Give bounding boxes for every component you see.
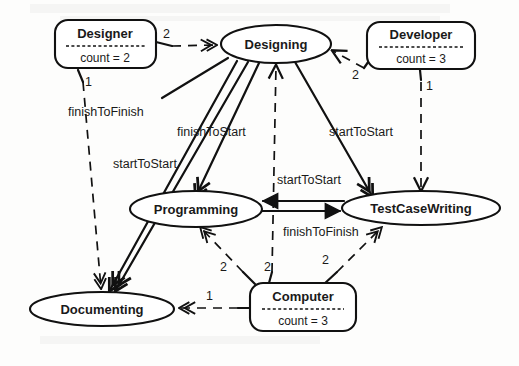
edge-designer-to-designing xyxy=(156,42,216,46)
multiplicity-computer-testcase: 2 xyxy=(322,253,329,267)
edge-label-starttostart-right: startToStart xyxy=(329,125,393,139)
edge-designer-to-documenting xyxy=(78,70,101,288)
edge-label-starttostart-left: startToStart xyxy=(113,157,177,171)
node-programming-label: Programming xyxy=(154,202,239,217)
node-designing[interactable]: Designing xyxy=(221,25,331,63)
object-computer[interactable]: Computer count = 3 xyxy=(250,283,356,331)
edge-label-starttostart-mid: startToStart xyxy=(277,173,341,187)
object-computer-attribute: count = 3 xyxy=(278,314,328,328)
multiplicity-developer-designing: 2 xyxy=(352,68,359,82)
multiplicity-computer-documenting: 1 xyxy=(206,289,213,303)
multiplicity-computer-programming: 2 xyxy=(220,260,227,274)
edge-developer-to-testcase xyxy=(420,70,421,190)
object-computer-title: Computer xyxy=(272,289,333,304)
node-testcasewriting[interactable]: TestCaseWriting xyxy=(342,191,500,225)
node-designing-label: Designing xyxy=(245,37,308,52)
edge-computer-to-programming xyxy=(201,228,255,284)
node-documenting-label: Documenting xyxy=(60,302,143,317)
object-developer[interactable]: Developer count = 3 xyxy=(367,22,475,69)
diagram-canvas: Designing Programming TestCaseWriting Do… xyxy=(0,0,519,366)
diagram-svg: Designing Programming TestCaseWriting Do… xyxy=(0,0,519,366)
edge-computer-to-designing xyxy=(269,66,276,283)
object-designer-title: Designer xyxy=(77,26,133,41)
node-documenting[interactable]: Documenting xyxy=(30,292,174,326)
object-designer[interactable]: Designer count = 2 xyxy=(55,20,156,68)
node-testcasewriting-label: TestCaseWriting xyxy=(370,201,471,216)
edge-designing-to-documenting-finishtofinish xyxy=(110,61,237,290)
object-developer-attribute: count = 3 xyxy=(396,52,446,66)
edge-label-finishtofinish-left: finishToFinish xyxy=(68,105,144,119)
node-programming[interactable]: Programming xyxy=(130,191,262,227)
edge-label-finishtostart: finishToStart xyxy=(177,125,246,139)
multiplicity-designer-designing: 2 xyxy=(163,27,170,41)
multiplicity-developer-testcase: 1 xyxy=(426,79,433,93)
multiplicity-designer-documenting: 1 xyxy=(85,75,92,89)
edge-designing-fan-left xyxy=(162,58,228,98)
object-designer-attribute: count = 2 xyxy=(80,51,130,65)
multiplicity-computer-designing: 2 xyxy=(264,260,271,274)
object-developer-title: Developer xyxy=(390,27,453,42)
edge-label-finishtofinish-mid: finishToFinish xyxy=(283,225,359,239)
